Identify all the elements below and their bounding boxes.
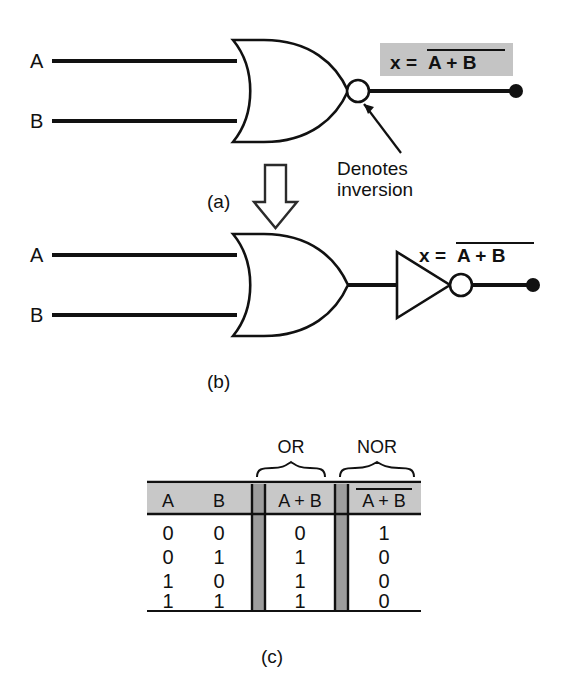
panel-a-part-label: (a) — [207, 191, 230, 212]
panel-a-eq-rhs: A + B — [428, 52, 476, 73]
panel-b-eq-equals: = — [435, 245, 446, 266]
figure-root: A B x = A + B Denotes inversion (a) — [0, 0, 566, 688]
transform-arrow-icon — [254, 165, 297, 228]
panel-b-part-label: (b) — [207, 371, 230, 392]
panel-c-group-label-or: OR — [278, 437, 305, 457]
panel-c-cell-r3-c2: 1 — [294, 590, 305, 612]
panel-b: A B x = A + B (b) — [30, 234, 540, 392]
panel-b-input-label-B: B — [30, 304, 43, 326]
panel-c-cell-r1-c0: 0 — [162, 546, 173, 568]
panel-a-or-gate-body — [233, 40, 348, 142]
panel-c-brace-or — [257, 462, 325, 477]
panel-a-input-label-B: B — [30, 110, 43, 132]
panel-a-annotation-arrow-head — [364, 104, 374, 114]
panel-a-eq-lhs: x — [390, 52, 401, 73]
panel-c-cell-r3-c0: 1 — [162, 590, 173, 612]
panel-c-part-label: (c) — [261, 646, 283, 667]
panel-a-annotation-line2: inversion — [337, 179, 413, 200]
panel-c-group-label-nor: NOR — [357, 437, 397, 457]
panel-a-eq-equals: = — [406, 52, 417, 73]
panel-a-input-label-A: A — [30, 50, 44, 72]
panel-c-table-row: 0 0 0 1 — [162, 522, 389, 544]
panel-c: OR NOR A B A + B A + B 0 0 0 1 — [147, 437, 421, 667]
panel-c-cell-r2-c0: 1 — [162, 570, 173, 592]
panel-a-inversion-bubble — [347, 80, 369, 102]
panel-c-cell-r0-c2: 0 — [294, 522, 305, 544]
panel-c-header-cell-2: A + B — [278, 491, 322, 511]
panel-c-table-row: 1 1 1 0 — [162, 590, 389, 612]
panel-c-cell-r1-c2: 1 — [294, 546, 305, 568]
nor-gate-figure-svg: A B x = A + B Denotes inversion (a) — [0, 0, 566, 688]
panel-c-cell-r2-c1: 0 — [213, 570, 224, 592]
panel-c-cell-r0-c1: 0 — [213, 522, 224, 544]
panel-c-cell-r0-c0: 0 — [162, 522, 173, 544]
panel-b-input-label-A: A — [30, 244, 44, 266]
panel-c-cell-r2-c3: 0 — [378, 570, 389, 592]
panel-c-brace-nor — [340, 462, 414, 477]
panel-c-cell-r0-c3: 1 — [378, 522, 389, 544]
panel-c-cell-r1-c1: 1 — [213, 546, 224, 568]
panel-a-annotation-line1: Denotes — [337, 158, 408, 179]
panel-c-header-cell-0: A — [162, 491, 174, 511]
panel-b-inversion-bubble — [450, 274, 472, 296]
panel-c-cell-r3-c3: 0 — [378, 590, 389, 612]
panel-b-or-gate-body — [233, 234, 348, 336]
panel-c-cell-r2-c2: 1 — [294, 570, 305, 592]
panel-a-output-terminal-dot — [509, 84, 523, 98]
panel-b-eq-rhs: A + B — [457, 245, 505, 266]
panel-c-cell-r3-c1: 1 — [213, 590, 224, 612]
panel-b-eq-lhs: x — [419, 245, 430, 266]
panel-c-table-row: 1 0 1 0 — [162, 570, 389, 592]
panel-c-header-cell-3: A + B — [362, 491, 406, 511]
panel-b-output-terminal-dot — [526, 278, 540, 292]
panel-c-header-cell-1: B — [213, 491, 225, 511]
panel-c-table-row: 0 1 1 0 — [162, 546, 389, 568]
panel-c-separator-bar-1 — [253, 484, 264, 611]
panel-c-cell-r1-c3: 0 — [378, 546, 389, 568]
panel-c-separator-bar-2 — [336, 484, 347, 611]
